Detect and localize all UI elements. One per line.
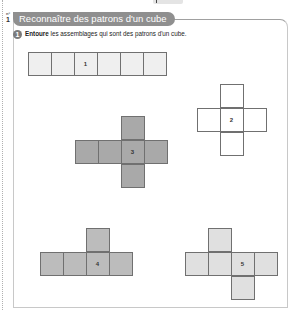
question-number-badge: 1 xyxy=(13,30,22,39)
net-cell xyxy=(28,52,52,76)
net-label: 4 xyxy=(86,252,109,276)
net-cell xyxy=(97,52,121,76)
question-instruction: Entoure les assemblages qui sont des pat… xyxy=(25,29,187,39)
net-cell xyxy=(40,252,64,276)
instruction-text: les assemblages qui sont des patrons d'u… xyxy=(49,30,187,37)
net-cell xyxy=(208,228,232,252)
net-cell xyxy=(143,52,167,76)
net-label: 5 xyxy=(231,252,254,276)
page-margin-dotted-line xyxy=(2,0,3,310)
exercise-marker-number: 1 xyxy=(4,16,12,23)
net-cell xyxy=(51,52,75,76)
net-cell xyxy=(243,108,267,132)
net-cell xyxy=(208,252,232,276)
net-cell xyxy=(220,84,244,108)
net-cell xyxy=(121,116,145,140)
net-cell xyxy=(185,252,209,276)
net-cell xyxy=(98,140,122,164)
top-cut-off-tab xyxy=(153,0,183,4)
net-cell xyxy=(197,108,221,132)
net-cell xyxy=(121,164,145,188)
net-cell xyxy=(231,276,255,300)
instruction-verb: Entoure xyxy=(25,30,49,37)
net-cell xyxy=(120,52,144,76)
exercise-marker: n° 1 xyxy=(4,11,12,23)
net-cell xyxy=(109,252,133,276)
net-cell xyxy=(144,140,168,164)
net-cell xyxy=(220,132,244,156)
net-label: 3 xyxy=(121,140,144,164)
net-label: 2 xyxy=(220,108,243,132)
net-cell xyxy=(75,140,99,164)
net-cell xyxy=(63,252,87,276)
section-title: Reconnaître des patrons d'un cube xyxy=(13,12,175,26)
net-label: 1 xyxy=(74,52,97,76)
net-cell xyxy=(254,252,278,276)
net-cell xyxy=(86,228,110,252)
